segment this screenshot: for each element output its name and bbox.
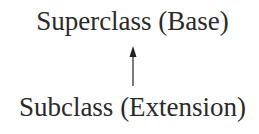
inheritance-arrow-icon — [126, 44, 140, 88]
superclass-node: Superclass (Base) — [3, 6, 259, 36]
subclass-node: Subclass (Extension) — [3, 92, 259, 122]
